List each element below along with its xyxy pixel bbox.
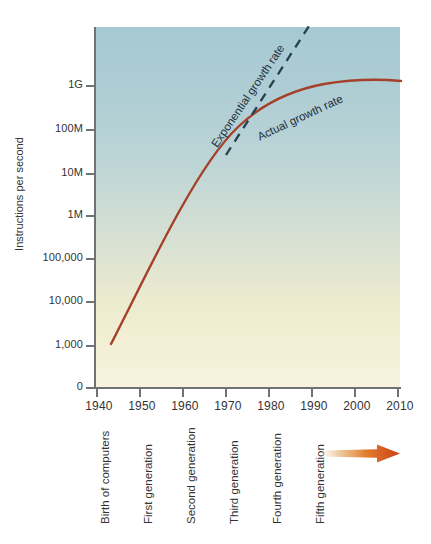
generation-label-first-generation: First generation — [142, 444, 154, 524]
y-tick-mark-10000 — [86, 301, 95, 303]
y-tick-label-1m: 1M — [68, 208, 83, 220]
x-tick-label-1950: 1950 — [128, 399, 156, 413]
x-tick-mark-1950 — [139, 388, 141, 397]
y-tick-mark-100000 — [86, 258, 95, 260]
y-tick-label-1000: 1,000 — [55, 338, 83, 350]
x-tick-label-2010: 2010 — [386, 399, 414, 413]
x-tick-mark-1980 — [268, 388, 270, 397]
y-tick-mark-0 — [86, 387, 95, 389]
y-tick-label-10000: 10,000 — [49, 294, 83, 306]
x-tick-mark-1940 — [96, 388, 98, 397]
actual-growth-curve — [111, 80, 401, 344]
x-tick-label-1970: 1970 — [214, 399, 242, 413]
x-tick-label-1980: 1980 — [257, 399, 285, 413]
y-axis-title: Instructions per second — [13, 114, 25, 274]
y-tick-label-0: 0 — [77, 380, 83, 392]
growth-rate-chart-figure: 1G 100M 10M 1M 100,000 10,000 1,000 0 In… — [0, 0, 431, 544]
plot-svg — [96, 27, 401, 387]
y-tick-label-1g: 1G — [68, 78, 83, 90]
y-tick-mark-10m — [86, 173, 95, 175]
y-axis-line — [94, 27, 96, 388]
plot-area — [95, 27, 400, 387]
x-tick-mark-1970 — [225, 388, 227, 397]
x-tick-label-1990: 1990 — [300, 399, 328, 413]
x-tick-mark-2010 — [397, 388, 399, 397]
generation-label-birth-of-computers: Birth of computers — [99, 431, 111, 524]
y-tick-label-100m: 100M — [55, 122, 83, 134]
generation-label-second-generation: Second generation — [185, 427, 197, 524]
time-progress-arrow-icon — [322, 444, 400, 463]
y-tick-label-10m: 10M — [61, 166, 83, 178]
y-tick-mark-100m — [86, 129, 95, 131]
y-tick-label-100000: 100,000 — [43, 251, 83, 263]
x-tick-mark-1960 — [182, 388, 184, 397]
x-tick-label-1940: 1940 — [85, 399, 113, 413]
y-tick-mark-1g — [86, 85, 95, 87]
y-tick-mark-1000 — [86, 345, 95, 347]
x-tick-mark-1990 — [311, 388, 313, 397]
generation-label-fourth-generation: Fourth generation — [271, 433, 283, 524]
x-tick-label-2000: 2000 — [343, 399, 371, 413]
y-tick-mark-1m — [86, 215, 95, 217]
x-tick-label-1960: 1960 — [171, 399, 199, 413]
generation-label-third-generation: Third generation — [228, 440, 240, 524]
x-tick-mark-2000 — [354, 388, 356, 397]
